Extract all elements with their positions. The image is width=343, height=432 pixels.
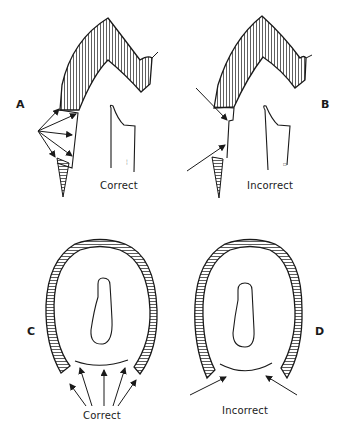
panel-a-tiny-marks: ~~	[125, 159, 129, 165]
panel-b-striated-band	[214, 16, 312, 108]
panel-c-caption: Correct	[83, 410, 121, 421]
panel-b-tapered-strip	[212, 157, 223, 198]
panel-c-striated-rim	[46, 240, 157, 375]
panel-c-inner-contour	[91, 278, 112, 344]
panel-d-arrows	[190, 376, 297, 395]
panel-label-d: D	[315, 325, 324, 338]
panel-label-c: C	[27, 325, 35, 338]
panel-a-drawing: ~~	[38, 18, 158, 197]
panel-d-inner-contour	[233, 283, 254, 347]
panel-c-opening-edge	[75, 360, 128, 365]
panel-label-b: B	[321, 98, 329, 111]
panel-b-tiny-marks: ☐	[283, 162, 287, 167]
panel-a-arrows	[38, 109, 76, 157]
figure-canvas: ~~ ☐	[0, 0, 343, 432]
panel-b-caption: Incorrect	[247, 180, 293, 191]
panel-d-opening-edge	[220, 363, 272, 371]
panel-c-arrows	[70, 368, 136, 406]
panel-b-drawing: ☐	[187, 16, 312, 198]
panel-d-striated-rim	[195, 240, 302, 379]
panel-c-drawing	[46, 240, 157, 407]
panel-label-a: A	[16, 98, 25, 111]
panel-d-drawing	[190, 240, 302, 396]
panel-a-outline-shape: ~~	[110, 105, 135, 172]
panel-d-caption: Incorrect	[222, 405, 268, 416]
panel-a-striated-band	[60, 18, 158, 110]
panel-b-outline-shape: ☐	[264, 106, 290, 170]
panel-a-tapered-strip	[57, 158, 69, 197]
panel-a-caption: Correct	[100, 180, 138, 191]
